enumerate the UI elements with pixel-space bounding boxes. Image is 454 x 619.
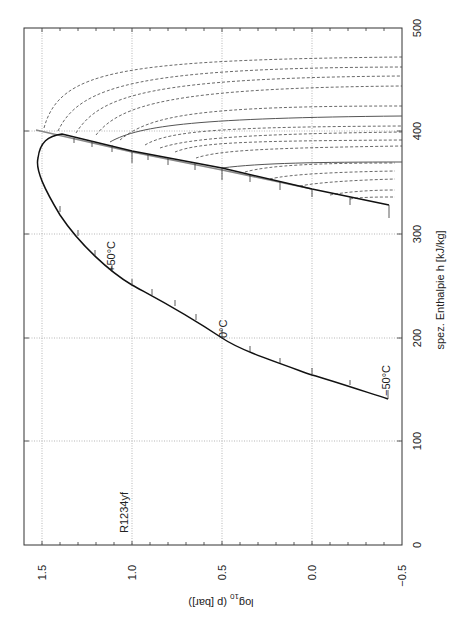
enthalpy-tick-labels: 0 100 200 300 400 500 — [411, 19, 423, 548]
grid — [24, 28, 402, 545]
saturation-dome — [37, 134, 389, 399]
chart: +50°C 0°C −50°C R1234yf 1.5 1.0 0.5 0.0 … — [0, 0, 454, 619]
svg-text:−0.5: −0.5 — [396, 565, 408, 587]
svg-text:500: 500 — [411, 19, 423, 37]
svg-text:log10 (p [bar]): log10 (p [bar]) — [188, 593, 253, 610]
svg-text:0.5: 0.5 — [216, 565, 228, 580]
svg-text:200: 200 — [411, 329, 423, 347]
svg-text:300: 300 — [411, 225, 423, 243]
x-axis-title: spez. Enthalpie h [kJ/kg] — [434, 230, 446, 349]
svg-text:0.0: 0.0 — [306, 565, 318, 580]
substance-label: R1234yf — [118, 491, 130, 533]
annotation-0c: 0°C — [217, 319, 229, 338]
log-p-tick-labels: 1.5 1.0 0.5 0.0 −0.5 — [36, 565, 408, 587]
plot-frame — [24, 28, 402, 545]
svg-text:400: 400 — [411, 122, 423, 140]
svg-text:1.5: 1.5 — [36, 565, 48, 580]
svg-text:0: 0 — [411, 542, 423, 548]
annotation-plus50: +50°C — [105, 241, 117, 272]
svg-text:100: 100 — [411, 432, 423, 450]
y-axis-title: log10 (p [bar]) — [188, 593, 253, 610]
isotherms — [44, 57, 402, 199]
annotation-minus50: −50°C — [380, 365, 392, 396]
log-p-ticks — [24, 28, 402, 545]
svg-text:1.0: 1.0 — [126, 565, 138, 580]
